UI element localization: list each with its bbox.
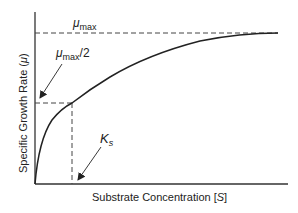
ks-label: Ks [100,131,114,148]
monod-chart: μmax μmax/2 Ks Substrate Concentration [… [0,0,298,213]
half-mu-max-label: μmax/2 [55,46,90,62]
half-mu-arrow [40,64,62,98]
x-axis-label: Substrate Concentration [S] [92,191,227,203]
y-axis-label: Specific Growth Rate (μ) [17,53,29,173]
mu-max-label: μmax [72,16,97,32]
ks-arrow [78,147,101,180]
